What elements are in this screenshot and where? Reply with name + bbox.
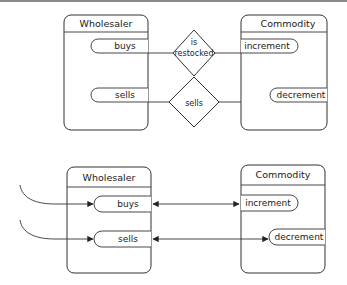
bottom-commodity-increment-label: increment	[245, 198, 291, 208]
top-sells-relationship[interactable]: sells	[169, 77, 219, 127]
bottom-wholesaler-title: Wholesaler	[83, 172, 136, 183]
bottom-wholesaler-buys-label: buys	[117, 199, 139, 209]
bottom-diagram: Wholesaler buys sells Commodity incremen…	[20, 165, 325, 273]
diagram-canvas: Wholesaler buys sells Commodity incremen…	[0, 0, 347, 285]
is-restocked-label-line1: is	[191, 38, 197, 47]
top-diagram: Wholesaler buys sells Commodity incremen…	[64, 15, 327, 130]
top-wholesaler-sells-label: sells	[115, 90, 135, 100]
top-commodity-entity[interactable]: Commodity increment decrement	[241, 15, 327, 130]
top-commodity-title: Commodity	[261, 18, 316, 29]
sells-relationship-label: sells	[185, 99, 203, 108]
bottom-commodity-decrement-label: decrement	[275, 232, 324, 242]
top-commodity-increment-label: increment	[244, 41, 290, 51]
top-wholesaler-entity[interactable]: Wholesaler buys sells	[64, 15, 148, 130]
bottom-commodity-entity[interactable]: Commodity increment decrement	[241, 165, 325, 273]
bottom-commodity-title: Commodity	[256, 169, 311, 180]
top-commodity-decrement-label: decrement	[277, 90, 326, 100]
is-restocked-label-line2: restocked	[175, 49, 214, 58]
top-wholesaler-buys-label: buys	[114, 41, 136, 51]
top-wholesaler-title: Wholesaler	[80, 18, 133, 29]
top-is-restocked-relationship[interactable]: is restocked	[173, 30, 215, 76]
bottom-wholesaler-sells-label: sells	[118, 234, 138, 244]
bottom-wholesaler-entity[interactable]: Wholesaler buys sells	[67, 167, 151, 273]
bottom-commodity-box[interactable]	[241, 165, 325, 273]
